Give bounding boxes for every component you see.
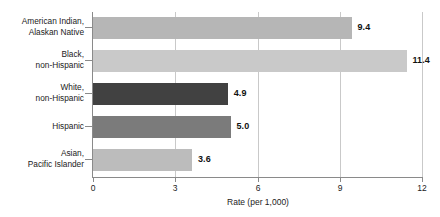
- bar-value-white-non-hispanic: 4.9: [234, 88, 247, 98]
- category-tick-2: [85, 93, 93, 94]
- x-tick-12: [422, 178, 423, 182]
- category-label-black-non-hispanic: Black, non-Hispanic: [2, 49, 84, 70]
- bar-value-hispanic: 5.0: [237, 121, 250, 131]
- category-tick-1: [85, 60, 93, 61]
- bar-asian-pacific-islander: [93, 149, 192, 171]
- bar-american-indian-alaskan-native: [93, 17, 352, 39]
- x-tick-label-9: 9: [338, 183, 343, 193]
- bar-black-non-hispanic: [93, 50, 407, 72]
- category-label-american-indian-alaskan-native: American Indian, Alaskan Native: [2, 16, 84, 37]
- category-label-hispanic: Hispanic: [2, 121, 84, 132]
- x-tick-6: [258, 178, 259, 182]
- bar-value-american-indian-alaskan-native: 9.4: [358, 22, 371, 32]
- category-label-white-non-hispanic: White, non-Hispanic: [2, 82, 84, 103]
- x-tick-0: [93, 178, 94, 182]
- bar-chart: American Indian, Alaskan Native Black, n…: [0, 0, 440, 217]
- x-tick-9: [340, 178, 341, 182]
- category-tick-3: [85, 126, 93, 127]
- category-tick-0: [85, 27, 93, 28]
- x-axis-title: Rate (per 1,000): [93, 197, 423, 207]
- x-tick-label-6: 6: [256, 183, 261, 193]
- x-tick-label-3: 3: [173, 183, 178, 193]
- bar-value-asian-pacific-islander: 3.6: [198, 154, 211, 164]
- bar-white-non-hispanic: [93, 83, 228, 105]
- x-tick-label-12: 12: [417, 183, 426, 193]
- gridline-12: [422, 12, 423, 177]
- x-tick-3: [175, 178, 176, 182]
- bar-hispanic: [93, 116, 231, 138]
- x-tick-label-0: 0: [91, 183, 96, 193]
- category-tick-4: [85, 159, 93, 160]
- bar-value-black-non-hispanic: 11.4: [413, 55, 430, 65]
- category-label-asian-pacific-islander: Asian, Pacific Islander: [2, 148, 84, 169]
